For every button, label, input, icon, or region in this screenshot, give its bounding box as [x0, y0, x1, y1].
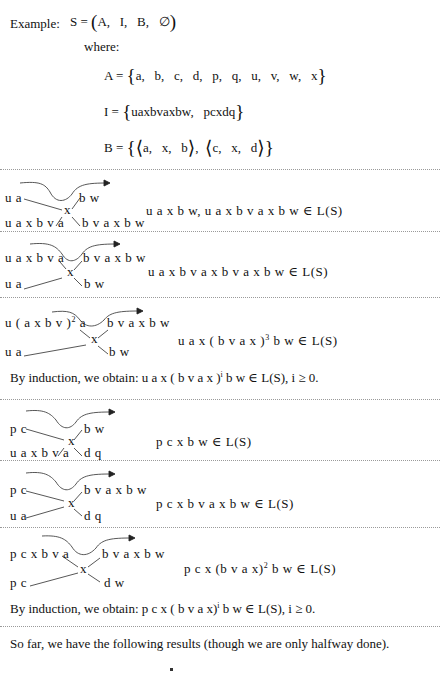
step-result: u a x b v a x b v a x b w ∈ L(S) — [148, 264, 328, 280]
top-left-fragment: p c x b v a — [10, 546, 69, 562]
top-left-fragment: u ( a x b v )2 a — [5, 315, 86, 331]
step-result: u a x b w, u a x b v a x b w ∈ L(S) — [146, 203, 343, 219]
system-definition: S = (A, I, B, ∅) — [70, 12, 176, 31]
arrow-head-icon — [114, 241, 120, 247]
initial-lhs: I = — [104, 104, 119, 119]
step-result: u a x ( b v a x )3 b w ∈ L(S) — [178, 333, 338, 349]
arrow-head-icon — [109, 409, 115, 415]
bottom-left-fragment: u a — [5, 276, 22, 292]
system-tuple: A, I, B, ∅ — [97, 14, 169, 29]
angle-close: ⟩ — [188, 137, 195, 158]
bottom-right-fragment: d q — [84, 508, 102, 524]
bottom-right-fragment: d q — [84, 445, 102, 461]
bottom-right-fragment: b w — [84, 276, 105, 292]
brace-open: { — [122, 101, 131, 122]
step-result: p c x b w ∈ L(S) — [156, 434, 252, 450]
initial-definition: I = {uaxbvaxbw, pcxdq} — [104, 102, 244, 121]
bottom-left-fragment: u a — [5, 344, 22, 360]
top-right-fragment: b v a x b w — [107, 315, 170, 331]
bottom-right-fragment: b w — [109, 344, 130, 360]
crossover-point: x — [68, 495, 75, 511]
top-right-fragment: b w — [79, 190, 100, 206]
angle-open: ⟨ — [136, 137, 143, 158]
cut-off-glyph — [170, 668, 173, 671]
crossover-point: x — [80, 561, 87, 577]
top-left-fragment: p c — [10, 482, 27, 498]
rule-1: a, x, b — [143, 140, 188, 155]
bottom-left-fragment: u a x b v a — [10, 445, 69, 461]
crossover-point: x — [68, 433, 75, 449]
arrow-head-icon — [129, 535, 135, 541]
system-lhs: S = — [70, 14, 88, 29]
top-right-fragment: b v a x b w — [84, 482, 147, 498]
top-right-fragment: b v a x b w — [83, 250, 146, 266]
step-result: p c x (b v a x)2 b w ∈ L(S) — [184, 561, 336, 577]
arrow-head-icon — [137, 308, 143, 314]
induction-statement-1: By induction, we obtain: u a x ( b v a x… — [10, 370, 319, 386]
top-left-fragment: p c — [10, 421, 27, 437]
alphabet-lhs: A = — [104, 68, 123, 83]
rule-2: c, x, d — [212, 140, 257, 155]
brace-open: { — [127, 65, 136, 86]
bottom-right-fragment: d w — [104, 575, 125, 591]
top-right-fragment: b v a x b w — [102, 546, 165, 562]
initial-items: uaxbvaxbw, pcxdq — [131, 104, 235, 119]
top-left-fragment: u a — [5, 190, 22, 206]
alphabet-items: a, b, c, d, p, q, u, v, w, x — [136, 68, 318, 83]
crossover-point: x — [67, 264, 74, 280]
bottom-left-fragment: p c — [10, 575, 27, 591]
arrow-head-icon — [104, 180, 110, 186]
brace-close: } — [265, 137, 274, 158]
bottom-right-fragment: b v a x b w — [82, 215, 145, 231]
separator — [0, 626, 440, 627]
crossover-point: x — [91, 331, 98, 347]
rules-lhs: B = — [104, 140, 123, 155]
bottom-left-fragment: u a x b v a — [5, 215, 64, 231]
bottom-left-fragment: u a — [10, 508, 27, 524]
example-label: Example: — [10, 16, 60, 32]
arrow-head-icon — [109, 471, 115, 477]
crossover-point: x — [64, 202, 71, 218]
angle-close: ⟩ — [257, 137, 264, 158]
top-left-fragment: u a x b v a — [5, 250, 64, 266]
summary-text: So far, we have the following results (t… — [10, 636, 389, 652]
brace-close: } — [317, 65, 326, 86]
brace-close: } — [235, 101, 244, 122]
paren-close: ) — [170, 11, 176, 32]
alphabet-definition: A = {a, b, c, d, p, q, u, v, w, x} — [104, 66, 327, 85]
rules-definition: B = {⟨a, x, b⟩, ⟨c, x, d⟩} — [104, 138, 274, 157]
where-label: where: — [84, 39, 119, 55]
top-right-fragment: b w — [84, 421, 105, 437]
step-result: p c x b v a x b w ∈ L(S) — [156, 496, 294, 512]
induction-statement-2: By induction, we obtain: p c x ( b v a x… — [10, 601, 315, 617]
brace-open: { — [127, 137, 136, 158]
